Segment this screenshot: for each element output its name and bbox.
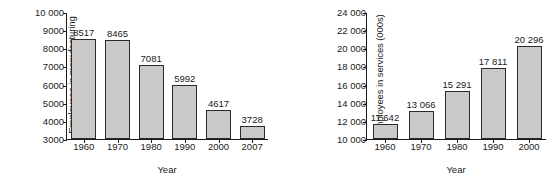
bar: 15 2911980	[445, 91, 470, 139]
bar: 20 2962000	[517, 46, 542, 139]
y-axis-tick-mark	[363, 31, 368, 32]
x-axis-tick-mark	[529, 138, 530, 143]
bar: 70811980	[139, 65, 164, 139]
y-axis-tick-mark	[63, 122, 68, 123]
x-axis-tick-mark	[151, 138, 152, 143]
y-axis-tick-mark	[63, 104, 68, 105]
y-axis-tick-mark	[63, 31, 68, 32]
bar: 37282007	[240, 126, 265, 139]
x-axis-tick-label: 1980	[141, 142, 162, 152]
y-axis-tick-label: 7000	[43, 62, 64, 72]
y-axis-tick-label: 4000	[43, 117, 64, 127]
y-axis-tick-mark	[363, 122, 368, 123]
figure-two-bar-charts: Employees in manufacturing (000s) 300040…	[0, 0, 556, 187]
y-axis-tick-mark	[63, 140, 68, 141]
chart-services: Employees in services (000s) 10 00012 00…	[278, 0, 556, 187]
bar-value-label: 13 066	[406, 100, 435, 110]
y-axis-tick-mark	[363, 49, 368, 50]
bar-value-label: 3728	[242, 115, 263, 125]
x-axis-tick-label: 1970	[107, 142, 128, 152]
bar-value-label: 5992	[174, 74, 195, 84]
x-axis-tick-mark	[219, 138, 220, 143]
x-axis-tick-mark	[385, 138, 386, 143]
y-axis-tick-label: 9000	[43, 26, 64, 36]
x-axis-tick-mark	[118, 138, 119, 143]
y-axis-tick-mark	[363, 13, 368, 14]
x-axis-tick-label: 2007	[242, 142, 263, 152]
bar: 13 0661970	[409, 111, 434, 139]
x-axis-tick-label: 1970	[410, 142, 431, 152]
chart-manufacturing: Employees in manufacturing (000s) 300040…	[0, 0, 278, 187]
bar-value-label: 7081	[141, 54, 162, 64]
x-axis-tick-label: 1960	[374, 142, 395, 152]
plot-area: 11 642196013 066197015 291198017 8111990…	[366, 13, 546, 140]
x-axis-tick-label: 1990	[174, 142, 195, 152]
y-axis-tick-label: 3000	[43, 135, 64, 145]
bar: 17 8111990	[481, 68, 506, 139]
bar-value-label: 17 811	[479, 57, 507, 67]
x-axis-tick-label: 1990	[482, 142, 503, 152]
x-axis-tick-mark	[421, 138, 422, 143]
y-axis-tick-mark	[363, 86, 368, 87]
y-axis-tick-label: 5000	[43, 99, 64, 109]
y-axis-tick-mark	[63, 13, 68, 14]
bar-value-label: 4617	[208, 99, 229, 109]
x-axis-tick-mark	[493, 138, 494, 143]
x-axis-tick-mark	[457, 138, 458, 143]
x-axis-label: Year	[366, 164, 546, 175]
bar-value-label: 15 291	[442, 80, 471, 90]
bar-value-label: 8465	[107, 29, 128, 39]
y-axis-tick-mark	[63, 49, 68, 50]
bar: 85171960	[71, 39, 96, 139]
y-axis-tick-label: 6000	[43, 81, 64, 91]
x-axis-tick-mark	[185, 138, 186, 143]
bar: 11 6421960	[373, 124, 398, 139]
x-axis-tick-mark	[84, 138, 85, 143]
x-axis-label: Year	[66, 164, 268, 175]
y-axis-tick-mark	[63, 67, 68, 68]
y-axis-tick-label: 8000	[43, 44, 64, 54]
y-axis-tick-mark	[363, 140, 368, 141]
plot-area: 8517196084651970708119805992199046172000…	[66, 13, 268, 140]
bar-value-label: 11 642	[371, 113, 399, 123]
y-axis-tick-mark	[363, 104, 368, 105]
bar: 59921990	[172, 85, 197, 139]
bar-value-label: 8517	[73, 28, 94, 38]
x-axis-tick-label: 2000	[208, 142, 229, 152]
y-axis-tick-mark	[63, 86, 68, 87]
x-axis-tick-label: 1980	[446, 142, 467, 152]
x-axis-tick-mark	[252, 138, 253, 143]
bar: 84651970	[105, 40, 130, 139]
y-axis-tick-label: 10 000	[35, 8, 64, 18]
y-axis-tick-mark	[363, 67, 368, 68]
bar: 46172000	[206, 110, 231, 139]
bar-value-label: 20 296	[514, 35, 543, 45]
x-axis-tick-label: 1960	[73, 142, 94, 152]
x-axis-tick-label: 2000	[518, 142, 539, 152]
